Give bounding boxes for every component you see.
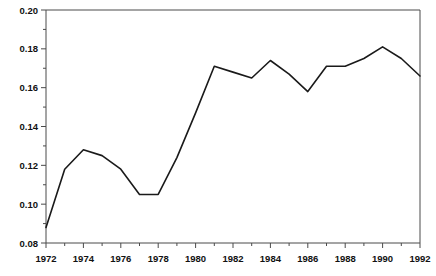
y-axis-tick-label: 0.10 [20,199,39,210]
plot-background [0,0,436,276]
y-axis-tick-label: 0.18 [20,43,39,54]
y-axis-tick-label: 0.16 [20,82,39,93]
x-axis-tick-label: 1990 [372,253,393,264]
y-axis-tick-label: 0.20 [20,5,39,16]
y-axis-tick-label: 0.12 [20,160,39,171]
line-chart-plot: 0.080.100.120.140.160.180.20197219741976… [0,0,436,276]
x-axis-tick-label: 1982 [222,253,243,264]
x-axis-tick-label: 1978 [148,253,169,264]
y-axis-tick-label: 0.14 [20,121,39,132]
x-axis-tick-label: 1988 [335,253,356,264]
x-axis-tick-label: 1972 [35,253,56,264]
x-axis-tick-label: 1976 [110,253,131,264]
x-axis-tick-label: 1992 [409,253,430,264]
chart-figure: Claims on the United States, 1972-92 0.0… [0,0,436,276]
x-axis-tick-label: 1974 [73,253,95,264]
x-axis-tick-label: 1984 [260,253,282,264]
x-axis-tick-label: 1986 [297,253,318,264]
y-axis-tick-label: 0.08 [20,238,39,249]
x-axis-tick-label: 1980 [185,253,206,264]
